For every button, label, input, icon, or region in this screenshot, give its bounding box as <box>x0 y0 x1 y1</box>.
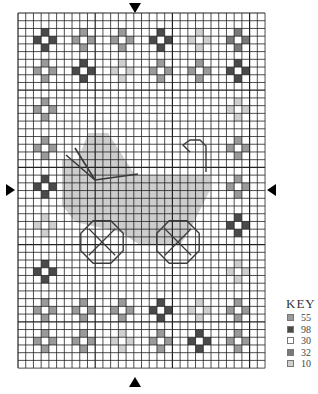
stitch-cell <box>87 67 95 75</box>
stitch-cell <box>242 144 250 152</box>
key-code: 10 <box>301 358 311 369</box>
stitch-cell <box>33 67 41 75</box>
stitch-cell <box>49 268 57 276</box>
stitch-cell <box>203 337 211 345</box>
stitch-cell <box>72 36 80 44</box>
stitch-cell <box>234 214 242 222</box>
stitch-cell <box>149 36 157 44</box>
stitch-cell <box>87 36 95 44</box>
stitch-cell <box>234 330 242 338</box>
stitch-cell <box>72 306 80 314</box>
key-code: 30 <box>301 335 311 346</box>
stitch-cell <box>41 260 49 268</box>
stitch-cell <box>242 306 250 314</box>
stitch-cell <box>242 337 250 345</box>
cross-stitch-chart <box>0 0 318 394</box>
stitch-cell <box>33 183 41 191</box>
stitch-cell <box>242 183 250 191</box>
stitch-cell <box>234 299 242 307</box>
stitch-cell <box>157 314 165 322</box>
key-code: 55 <box>301 312 311 323</box>
stitch-cell <box>111 67 119 75</box>
stitch-cell <box>118 75 126 83</box>
stitch-cell <box>41 314 49 322</box>
stitch-cell <box>118 299 126 307</box>
stitch-cell <box>149 67 157 75</box>
key-items: 5598303210 <box>287 312 316 370</box>
stitch-cell <box>242 67 250 75</box>
key-swatch <box>287 337 294 344</box>
stitch-cell <box>234 175 242 183</box>
stitch-cell <box>49 36 57 44</box>
center-arrow-top-icon <box>129 3 141 13</box>
stitch-cell <box>226 306 234 314</box>
stitch-cell <box>226 183 234 191</box>
stitch-cell <box>196 314 204 322</box>
stitch-cell <box>41 75 49 83</box>
stitch-cell <box>234 229 242 237</box>
stitch-cell <box>41 113 49 121</box>
stitch-cell <box>49 306 57 314</box>
stitch-cell <box>87 306 95 314</box>
stitch-cell <box>33 144 41 152</box>
stitch-cell <box>33 306 41 314</box>
stitch-cell <box>234 59 242 67</box>
stitch-cell <box>234 345 242 353</box>
stitch-cell <box>234 275 242 283</box>
stitch-cell <box>234 314 242 322</box>
stitch-cell <box>80 75 88 83</box>
stitch-cell <box>41 345 49 353</box>
stitch-cell <box>226 337 234 345</box>
stitch-cell <box>41 28 49 36</box>
stitch-cell <box>33 106 41 114</box>
stitch-cell <box>80 59 88 67</box>
stitch-cell <box>41 152 49 160</box>
stitch-cell <box>234 113 242 121</box>
stitch-cell <box>234 75 242 83</box>
stitch-cell <box>41 191 49 199</box>
stitch-cell <box>226 144 234 152</box>
stitch-cell <box>165 306 173 314</box>
stitch-cell <box>234 137 242 145</box>
stitch-cell <box>234 98 242 106</box>
stitch-cell <box>41 330 49 338</box>
stitch-cell <box>196 59 204 67</box>
stitch-cell <box>87 337 95 345</box>
stitch-cell <box>80 345 88 353</box>
key-swatch <box>287 326 294 333</box>
stitch-cell <box>157 75 165 83</box>
stitch-cell <box>196 345 204 353</box>
stitch-cell <box>157 59 165 67</box>
key-title: KEY <box>286 296 316 312</box>
stitch-cell <box>49 106 57 114</box>
stitch-cell <box>80 28 88 36</box>
stitch-cell <box>165 36 173 44</box>
stitch-cell <box>118 314 126 322</box>
key-item: 30 <box>287 335 316 347</box>
key-code: 32 <box>301 347 311 358</box>
stitch-cell <box>203 36 211 44</box>
stitch-cell <box>80 299 88 307</box>
stitch-cell <box>41 229 49 237</box>
key-item: 98 <box>287 324 316 336</box>
stitch-cell <box>234 152 242 160</box>
stitch-cell <box>41 98 49 106</box>
center-arrow-bottom-icon <box>129 377 141 387</box>
stitch-cell <box>111 36 119 44</box>
stitch-cell <box>226 36 234 44</box>
stitch-cell <box>33 36 41 44</box>
stitch-cell <box>126 337 134 345</box>
stitch-cell <box>49 337 57 345</box>
stitch-cell <box>157 299 165 307</box>
key-swatch <box>287 314 294 321</box>
grid-lines <box>18 13 265 368</box>
stitch-cell <box>188 337 196 345</box>
stitch-cell <box>118 44 126 52</box>
stitch-cell <box>41 59 49 67</box>
stitch-cell <box>33 268 41 276</box>
stitch-cell <box>196 44 204 52</box>
key-item: 55 <box>287 312 316 324</box>
stitch-cell <box>41 44 49 52</box>
stitch-cell <box>80 314 88 322</box>
stitch-cell <box>49 183 57 191</box>
